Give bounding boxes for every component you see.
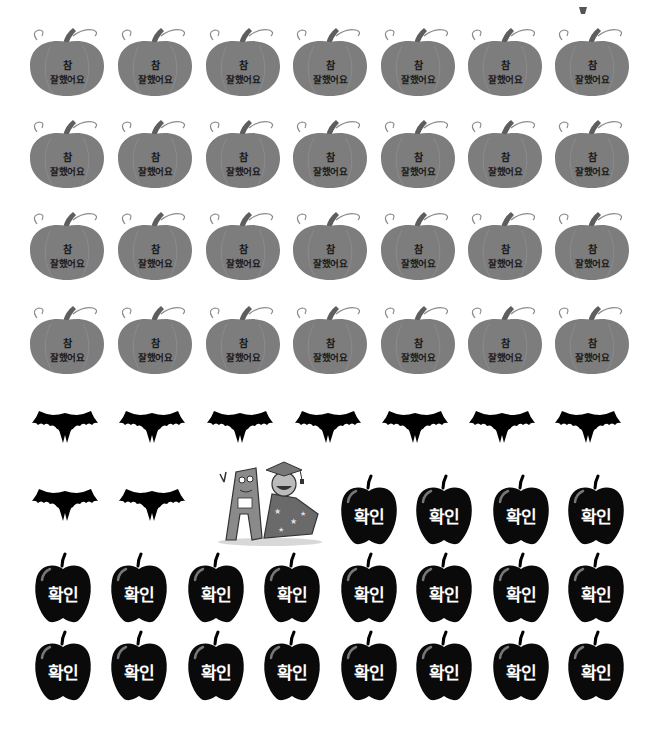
pumpkin-label-line2: 잘했어요 xyxy=(465,164,545,178)
pumpkin-label-line2: 잘했어요 xyxy=(378,164,458,178)
character-illustration-icon: ★★ ★★ xyxy=(212,458,328,548)
pumpkin-label-line1: 참 xyxy=(552,335,632,350)
pumpkin-label-line1: 참 xyxy=(552,149,632,164)
pumpkin-label-line2: 잘했어요 xyxy=(203,256,283,270)
pumpkin-label-line1: 참 xyxy=(27,335,107,350)
pumpkin-sticker: 참잘했어요 xyxy=(115,112,195,192)
pumpkin-label-line2: 잘했어요 xyxy=(203,350,283,364)
pumpkin-label-line1: 참 xyxy=(203,241,283,256)
pumpkin-label-line1: 참 xyxy=(465,57,545,72)
pumpkin-label-line2: 잘했어요 xyxy=(115,164,195,178)
pumpkin-label-line2: 잘했어요 xyxy=(290,72,370,86)
pumpkin-label-line2: 잘했어요 xyxy=(290,164,370,178)
pumpkin-label-line1: 참 xyxy=(552,57,632,72)
apple-label: 확인 xyxy=(109,581,169,606)
pumpkin-label-line2: 잘했어요 xyxy=(552,256,632,270)
bat-sticker xyxy=(119,484,191,524)
apple-sticker: 확인 xyxy=(33,630,93,702)
pumpkin-label-line1: 참 xyxy=(27,57,107,72)
apple-sticker: 확인 xyxy=(109,630,169,702)
apple-label: 확인 xyxy=(491,503,551,528)
pumpkin-label-line1: 참 xyxy=(290,149,370,164)
pumpkin-label-line1: 참 xyxy=(378,335,458,350)
bat-icon xyxy=(119,406,191,446)
apple-sticker: 확인 xyxy=(33,552,93,624)
cropped-sticker-fragment xyxy=(578,0,588,8)
pumpkin-sticker: 참잘했어요 xyxy=(115,298,195,378)
apple-label: 확인 xyxy=(109,659,169,684)
pumpkin-sticker: 참잘했어요 xyxy=(552,20,632,100)
pumpkin-label-line2: 잘했어요 xyxy=(290,256,370,270)
pumpkin-label-line1: 참 xyxy=(27,241,107,256)
bat-icon xyxy=(295,406,367,446)
bat-icon xyxy=(382,406,454,446)
apple-label: 확인 xyxy=(339,503,399,528)
apple-label: 확인 xyxy=(262,581,322,606)
pumpkin-label-line1: 참 xyxy=(27,149,107,164)
pumpkin-label-line1: 참 xyxy=(465,335,545,350)
apple-label: 확인 xyxy=(262,659,322,684)
pumpkin-sticker: 참잘했어요 xyxy=(27,204,107,284)
pumpkin-sticker: 참잘했어요 xyxy=(465,112,545,192)
apple-label: 확인 xyxy=(33,659,93,684)
pumpkin-sticker: 참잘했어요 xyxy=(203,298,283,378)
svg-text:★: ★ xyxy=(274,507,281,516)
pumpkin-label-line1: 참 xyxy=(378,149,458,164)
bat-icon xyxy=(32,484,104,524)
apple-sticker: 확인 xyxy=(414,552,474,624)
pumpkin-label-line1: 참 xyxy=(378,241,458,256)
pumpkin-sticker: 참잘했어요 xyxy=(378,112,458,192)
pumpkin-sticker: 참잘했어요 xyxy=(115,204,195,284)
apple-sticker: 확인 xyxy=(491,474,551,546)
apple-sticker: 확인 xyxy=(339,474,399,546)
pumpkin-label-line2: 잘했어요 xyxy=(290,350,370,364)
bat-sticker xyxy=(555,406,627,446)
pumpkin-label-line1: 참 xyxy=(378,57,458,72)
pumpkin-label-line2: 잘했어요 xyxy=(115,256,195,270)
apple-label: 확인 xyxy=(491,581,551,606)
pumpkin-label-line2: 잘했어요 xyxy=(465,256,545,270)
pumpkin-sticker: 참잘했어요 xyxy=(378,298,458,378)
apple-sticker: 확인 xyxy=(262,630,322,702)
bat-sticker xyxy=(207,406,279,446)
pumpkin-label-line1: 참 xyxy=(465,241,545,256)
apple-sticker: 확인 xyxy=(414,630,474,702)
apple-sticker: 확인 xyxy=(566,630,626,702)
pumpkin-sticker: 참잘했어요 xyxy=(465,204,545,284)
apple-label: 확인 xyxy=(566,659,626,684)
apple-label: 확인 xyxy=(186,659,246,684)
bat-icon xyxy=(555,406,627,446)
pumpkin-label-line2: 잘했어요 xyxy=(465,350,545,364)
pumpkin-label-line2: 잘했어요 xyxy=(552,72,632,86)
apple-sticker: 확인 xyxy=(186,630,246,702)
apple-label: 확인 xyxy=(414,659,474,684)
pumpkin-label-line1: 참 xyxy=(290,57,370,72)
pumpkin-label-line2: 잘했어요 xyxy=(27,164,107,178)
bat-sticker xyxy=(32,484,104,524)
bat-sticker xyxy=(32,406,104,446)
bat-sticker xyxy=(382,406,454,446)
pumpkin-sticker: 참잘했어요 xyxy=(27,20,107,100)
bat-icon xyxy=(32,406,104,446)
apple-sticker: 확인 xyxy=(491,630,551,702)
apple-label: 확인 xyxy=(186,581,246,606)
pumpkin-label-line1: 참 xyxy=(552,241,632,256)
apple-sticker: 확인 xyxy=(414,474,474,546)
pumpkin-label-line2: 잘했어요 xyxy=(378,350,458,364)
pumpkin-label-line2: 잘했어요 xyxy=(378,72,458,86)
apple-sticker: 확인 xyxy=(109,552,169,624)
pumpkin-label-line2: 잘했어요 xyxy=(552,164,632,178)
apple-label: 확인 xyxy=(339,581,399,606)
pumpkin-label-line1: 참 xyxy=(115,57,195,72)
apple-label: 확인 xyxy=(339,659,399,684)
letter-a-wizard-character: ★★ ★★ xyxy=(212,458,328,548)
pumpkin-label-line2: 잘했어요 xyxy=(27,350,107,364)
apple-label: 확인 xyxy=(566,503,626,528)
bat-sticker xyxy=(469,406,541,446)
pumpkin-sticker: 참잘했어요 xyxy=(552,204,632,284)
pumpkin-label-line2: 잘했어요 xyxy=(465,72,545,86)
apple-label: 확인 xyxy=(566,581,626,606)
pumpkin-sticker: 참잘했어요 xyxy=(203,204,283,284)
pumpkin-label-line2: 잘했어요 xyxy=(27,256,107,270)
pumpkin-label-line1: 참 xyxy=(115,335,195,350)
